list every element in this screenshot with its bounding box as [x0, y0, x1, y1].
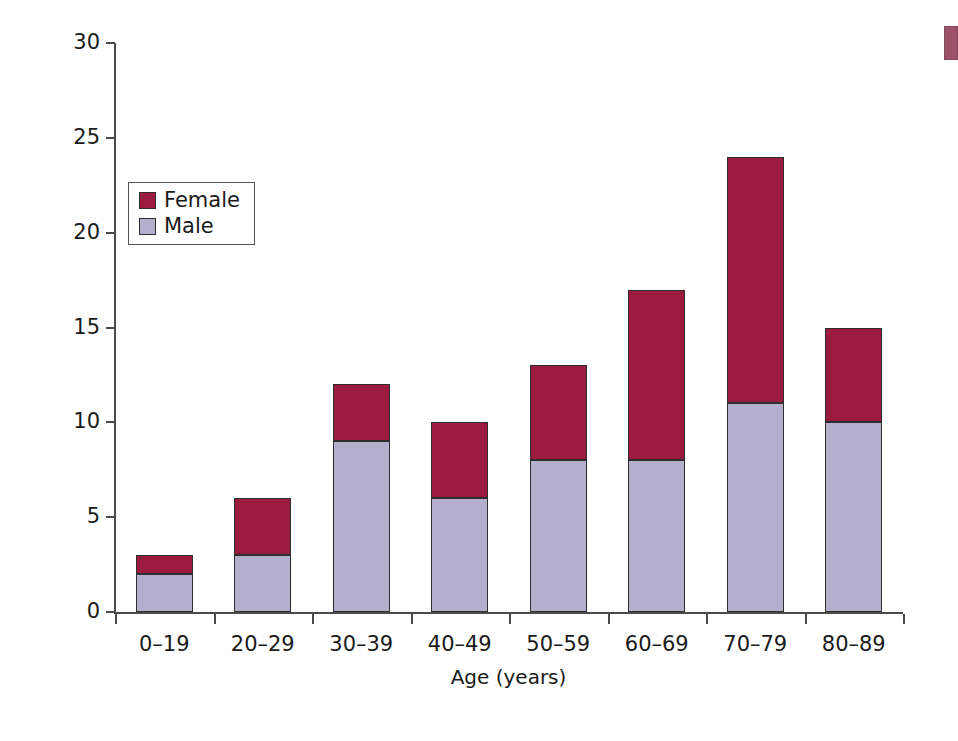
x-tick-mark [805, 614, 807, 624]
x-tick-mark [411, 614, 413, 624]
legend-item-female: Female [139, 190, 240, 211]
bar-group[interactable] [727, 43, 784, 612]
legend-item-male: Male [139, 216, 240, 237]
bar-segment-female[interactable] [431, 422, 488, 498]
y-axis-line [114, 43, 116, 614]
legend-label-male: Male [164, 216, 214, 237]
bar-group[interactable] [234, 43, 291, 612]
x-tick-mark [903, 614, 905, 624]
bar-segment-male[interactable] [333, 441, 390, 612]
y-axis-tick-labels: 051015202530 [50, 0, 100, 741]
y-tick-label: 25 [54, 127, 100, 148]
bar-group[interactable] [333, 43, 390, 612]
chart-legend: Female Male [128, 182, 255, 245]
x-tick-mark [509, 614, 511, 624]
bar-segment-male[interactable] [628, 460, 685, 612]
x-tick-label: 80–89 [794, 632, 914, 656]
y-tick-label: 30 [54, 32, 100, 53]
bar-group[interactable] [628, 43, 685, 612]
legend-swatch-male-icon [139, 218, 156, 235]
bar-segment-female[interactable] [825, 328, 882, 423]
bar-segment-male[interactable] [234, 555, 291, 612]
bar-segment-female[interactable] [628, 290, 685, 461]
bar-segment-female[interactable] [136, 555, 193, 574]
y-tick-label: 0 [54, 601, 100, 622]
bar-segment-male[interactable] [727, 403, 784, 612]
y-tick-label: 5 [54, 506, 100, 527]
x-tick-mark [608, 614, 610, 624]
bar-group[interactable] [136, 43, 193, 612]
x-tick-mark [706, 614, 708, 624]
bar-group[interactable] [825, 43, 882, 612]
bar-segment-male[interactable] [136, 574, 193, 612]
bar-group[interactable] [530, 43, 587, 612]
x-tick-mark [214, 614, 216, 624]
y-tick-label: 10 [54, 411, 100, 432]
bar-segment-male[interactable] [530, 460, 587, 612]
bar-segment-male[interactable] [431, 498, 488, 612]
x-axis-title: Age (years) [114, 665, 903, 689]
x-tick-mark [312, 614, 314, 624]
bar-segment-male[interactable] [825, 422, 882, 612]
y-tick-label: 20 [54, 222, 100, 243]
bar-segment-female[interactable] [333, 384, 390, 441]
legend-swatch-female-icon [139, 192, 156, 209]
adjacent-panel-swatch-icon [944, 26, 958, 60]
y-tick-label: 15 [54, 317, 100, 338]
bar-segment-female[interactable] [234, 498, 291, 555]
bar-segment-female[interactable] [530, 365, 587, 460]
bar-segment-female[interactable] [727, 157, 784, 404]
x-tick-mark [115, 614, 117, 624]
bar-group[interactable] [431, 43, 488, 612]
legend-label-female: Female [164, 190, 240, 211]
